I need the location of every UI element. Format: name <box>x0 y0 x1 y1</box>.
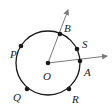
ray-oa <box>48 56 107 63</box>
point-s <box>75 47 80 52</box>
point-r <box>67 87 72 92</box>
point-a <box>78 59 83 64</box>
label-r: R <box>71 93 79 105</box>
label-p: P <box>9 48 17 60</box>
label-o: O <box>43 70 51 82</box>
point-o <box>46 61 51 66</box>
label-q: Q <box>13 91 21 103</box>
point-p <box>19 44 24 49</box>
label-a: A <box>83 66 91 78</box>
label-b: B <box>64 22 71 34</box>
label-s: S <box>82 38 88 50</box>
point-q <box>25 87 30 92</box>
point-b <box>58 32 63 37</box>
circle-diagram: O P B S A R Q <box>0 0 112 108</box>
